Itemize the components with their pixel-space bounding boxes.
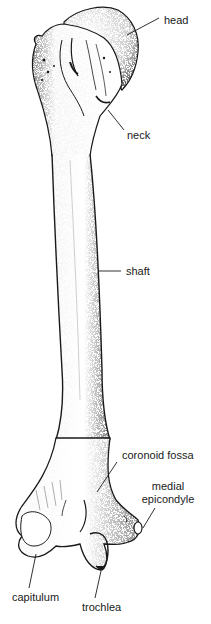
label-medial-epicondyle-line1: medial [140,480,196,492]
label-shaft: shaft [126,265,150,277]
leader-trochlea [95,571,101,598]
label-neck: neck [127,129,150,141]
humerus-diagram: head neck shaft coronoid fossa medial ep… [0,0,211,624]
leader-neck [108,110,124,130]
label-coronoid-fossa: coronoid fossa [122,449,194,461]
label-capitulum: capitulum [12,591,59,603]
humerus-shaft [52,154,110,440]
leader-medial-epicondyle [143,508,155,528]
leader-capitulum [29,554,36,588]
label-medial-epicondyle-line2: epicondyle [138,493,198,505]
proximal-humerus [32,24,122,156]
label-trochlea: trochlea [82,601,121,613]
humerus-bone-drawing [0,0,211,624]
label-head: head [164,14,188,26]
